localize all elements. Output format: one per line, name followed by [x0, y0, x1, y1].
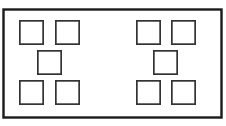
square-left-center — [38, 51, 61, 74]
diagram-svg — [0, 0, 226, 126]
diagram-canvas — [0, 0, 226, 126]
square-left-top-left — [20, 21, 43, 44]
square-right-bottom-right — [172, 81, 195, 104]
square-left-top-right — [56, 21, 79, 44]
square-right-bottom-left — [137, 81, 160, 104]
square-left-bottom-right — [56, 81, 79, 104]
square-left-bottom-left — [20, 81, 43, 104]
square-right-top-left — [137, 21, 160, 44]
square-right-top-right — [172, 21, 195, 44]
square-right-center — [154, 51, 177, 74]
